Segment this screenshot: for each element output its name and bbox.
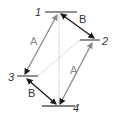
- transition-label-b-bottom: B: [28, 87, 35, 99]
- transition-b-1-2: [61, 14, 94, 38]
- level-3-label: 3: [8, 71, 15, 83]
- transition-label-a-left: A: [30, 35, 38, 47]
- transition-label-b-top: B: [79, 13, 86, 25]
- level-1-label: 1: [35, 6, 41, 18]
- transition-label-a-right: A: [70, 64, 78, 76]
- level-2-label: 2: [101, 35, 108, 47]
- energy-level-diagram: 1 2 3 4 A A B B: [0, 0, 114, 115]
- level-4-label: 4: [73, 102, 79, 114]
